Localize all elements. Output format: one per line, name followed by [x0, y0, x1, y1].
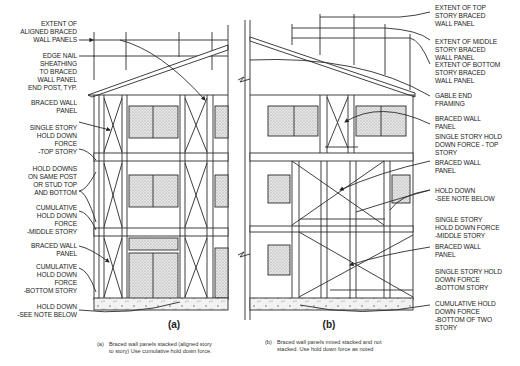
label-single-story-top-b: SINGLE STORY HOLD DOWN FORCE - TOP STORY	[435, 133, 502, 157]
panel-a-drawing	[79, 25, 228, 312]
label-cumulative-bottom-two: CUMULATIVE HOLD DOWN FORCE -BOTTOM OF TW…	[435, 300, 496, 332]
label-braced-wall-b3: BRACED WALL PANEL	[435, 243, 481, 259]
panel-b-drawing	[250, 12, 430, 312]
break-lines	[238, 20, 250, 320]
panel-b-tag: (b)	[323, 319, 336, 330]
label-cumulative-bottom: CUMULATIVE HOLD DOWN FORCE -BOTTOM STORY	[24, 263, 77, 295]
label-extent-top-story: EXTENT OF TOP STORY BRACED WALL PANEL	[435, 4, 486, 28]
caption-a-text: Braced wall panels stacked (aligned stor…	[109, 341, 212, 355]
label-single-story-top: SINGLE STORY HOLD DOWN FORCE -TOP STORY	[30, 124, 77, 156]
label-hold-down-note-a: HOLD DOWN -SEE NOTE BELOW	[17, 303, 77, 319]
label-edge-nail: EDGE NAIL SHEATHING TO BRACED WALL PANEL…	[28, 52, 77, 92]
label-braced-wall-b2: BRACED WALL PANEL	[435, 159, 481, 175]
caption-b: (b) Braced wall panels mixed stacked and…	[265, 339, 415, 355]
label-braced-wall-bottom: BRACED WALL PANEL	[31, 242, 77, 258]
label-extent-middle-story: EXTENT OF MIDDLE STORY BRACED WALL PANEL	[435, 38, 497, 62]
label-extent-aligned: EXTENT OF ALIGNED BRACED WALL PANELS	[20, 20, 77, 44]
caption-a-key: (a)	[97, 341, 104, 348]
label-braced-wall-b1: BRACED WALL PANEL	[435, 115, 481, 131]
label-hold-down-note-b: HOLD DOWN -SEE NOTE BELOW	[435, 187, 495, 203]
label-single-story-middle: SINGLE STORY HOLD DOWN FORCE -MIDDLE STO…	[435, 216, 499, 240]
caption-b-text: Braced wall panels mixed stacked and not…	[277, 339, 381, 353]
caption-a: (a) Braced wall panels stacked (aligned …	[97, 341, 247, 357]
caption-b-key: (b)	[265, 339, 272, 346]
label-braced-wall-top: BRACED WALL PANEL	[31, 99, 77, 115]
label-cumulative-middle: CUMULATIVE HOLD DOWN FORCE -MIDDLE STORY	[27, 204, 77, 236]
panel-a-tag: (a)	[168, 319, 180, 330]
label-extent-bottom-story: EXTENT OF BOTTOM STORY BRACED WALL PANEL	[435, 61, 500, 85]
label-single-story-bottom: SINGLE STORY HOLD DOWN FORCE -BOTTOM STO…	[435, 268, 502, 292]
label-gable-end: GABLE END FRAMING	[435, 92, 472, 108]
label-hold-downs-same-post: HOLD DOWNS ON SAME POST OR STUD TOP AND …	[28, 165, 77, 197]
